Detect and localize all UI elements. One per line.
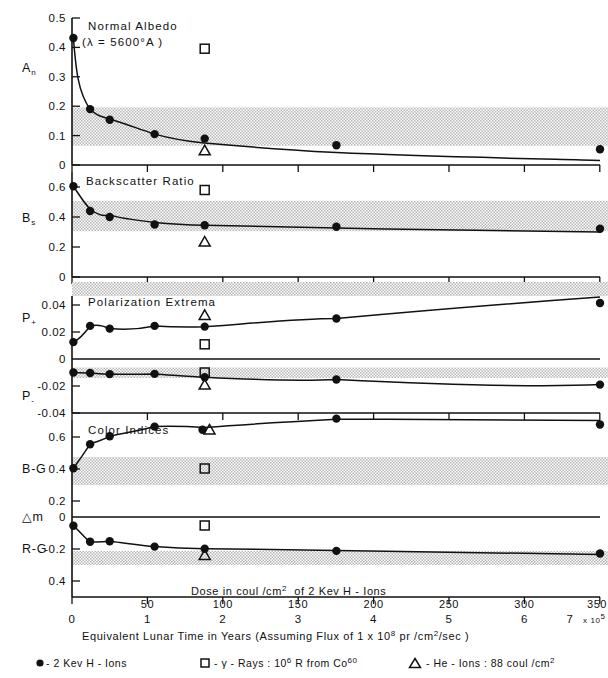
panel-albedo: 0.5 0.4 0.3 0.2 0.1 0 An Normal Albedo (… — [22, 12, 608, 172]
x-axis-dose-label: Dose in coul /cm2 of 2 Kev H - Ions — [191, 584, 386, 597]
x-tick-dose-250: 250 — [439, 598, 459, 610]
x-tick-years-4: 4 — [370, 613, 377, 625]
albedo-ytick-1: 0.4 — [49, 41, 67, 53]
legend-item-he-ions: - He - Ions : 88 coul /cm2 — [426, 656, 555, 669]
polarization-minus-point — [106, 370, 114, 378]
polarization-ytick-1: 0.02 — [42, 326, 66, 338]
x-tick-years-1: 1 — [144, 613, 151, 625]
albedo-gamma-ray-marker — [200, 44, 209, 53]
panel-polarization: 0.04 0.02 0 -0.02 -0.04 P+ P- Polarizati… — [22, 282, 608, 420]
backscatter-ytick-3: 0 — [59, 271, 66, 283]
panel-color-indices: 0.6 0.4 0.2 0 -0.2 0.4 B-G △m R-G Color … — [22, 414, 608, 604]
legend-open-triangle-icon — [410, 659, 421, 668]
x-tick-years-3: 3 — [295, 613, 302, 625]
backscatter-point — [596, 225, 604, 233]
albedo-ytick-4: 0.1 — [49, 130, 67, 142]
multi-panel-chart: 0.5 0.4 0.3 0.2 0.1 0 An Normal Albedo (… — [0, 0, 608, 678]
color-bg-point — [596, 420, 604, 428]
polarization-plus-point — [596, 299, 604, 307]
color-bg-point — [332, 414, 340, 422]
color-rg-point — [150, 542, 158, 550]
legend-filled-circle-icon — [36, 659, 43, 666]
color-bg-point — [86, 440, 94, 448]
polarization-ytick-2: 0 — [59, 353, 66, 365]
x-tick-dose-150: 150 — [288, 598, 308, 610]
panel-backscatter: 0.6 0.4 0.2 0 Bs Backscatter Ratio — [22, 172, 608, 284]
albedo-ytick-3: 0.2 — [49, 100, 67, 112]
albedo-he-ion-marker — [199, 145, 210, 155]
polarization-panel-title: Polarization Extrema — [88, 296, 216, 308]
color-rg-point — [106, 537, 114, 545]
color-bg-axis-label: B-G — [22, 462, 47, 476]
legend-open-square-icon — [201, 659, 209, 667]
albedo-ytick-2: 0.3 — [49, 71, 67, 83]
backscatter-point — [332, 223, 340, 231]
polarization-plus-point — [86, 322, 94, 330]
albedo-point — [332, 141, 340, 149]
x-tick-dose-200: 200 — [364, 598, 384, 610]
albedo-point — [150, 130, 158, 138]
backscatter-he-ion-marker — [199, 237, 210, 247]
polarization-he-ion-marker-upper — [199, 310, 210, 320]
color-rg-axis-label: R-G — [22, 542, 47, 556]
polarization-ytick-4: -0.04 — [37, 407, 66, 419]
color-bg-point — [69, 464, 77, 472]
albedo-point — [596, 145, 604, 153]
color-bg-point — [150, 422, 158, 430]
polarization-plus-axis-label: P+ — [22, 311, 37, 327]
backscatter-ytick-0: 0.6 — [49, 181, 67, 193]
color-ytick-0: 0.6 — [49, 431, 67, 443]
color-ytick-2: 0.2 — [49, 495, 67, 507]
polarization-plus-point — [201, 322, 209, 330]
x-tick-years-0: 0 — [69, 613, 76, 625]
backscatter-ytick-1: 0.4 — [49, 211, 67, 223]
albedo-ytick-5: 0 — [59, 159, 66, 171]
legend-item-h-ions: - 2 Kev H - Ions — [46, 657, 127, 669]
polarization-plus-point — [150, 322, 158, 330]
color-gamma-ray-marker-lower — [200, 521, 209, 530]
color-rg-point — [86, 538, 94, 546]
x-tick-dose-50: 50 — [141, 598, 154, 610]
color-ytick-1: 0.4 — [49, 463, 67, 475]
polarization-minus-point — [150, 370, 158, 378]
x-axis-labels: Dose in coul /cm2 of 2 Kev H - Ions 50 1… — [69, 584, 608, 642]
backscatter-point — [86, 207, 94, 215]
polarization-minus-point — [332, 375, 340, 383]
color-bg-point — [106, 432, 114, 440]
albedo-panel-title: Normal Albedo — [88, 20, 178, 32]
color-rg-point — [69, 522, 77, 530]
polarization-ytick-3: -0.02 — [37, 380, 66, 392]
albedo-ytick-0: 0.5 — [49, 12, 67, 24]
backscatter-point — [69, 182, 77, 190]
albedo-point — [86, 105, 94, 113]
color-rg-point — [332, 547, 340, 555]
x-tick-years-5: 5 — [446, 613, 453, 625]
x-axis-years-multiplier: x 105 — [583, 612, 606, 625]
polarization-he-ion-marker-lower — [199, 380, 210, 390]
polarization-minus-point — [86, 369, 94, 377]
x-tick-years-2: 2 — [219, 613, 226, 625]
albedo-point — [106, 116, 114, 124]
color-ytick-5: 0.4 — [49, 575, 67, 587]
albedo-point — [69, 34, 77, 42]
color-rg-point — [596, 549, 604, 557]
backscatter-panel-title: Backscatter Ratio — [86, 175, 195, 187]
x-axis-lunar-time-label: Equivalent Lunar Time in Years (Assuming… — [82, 629, 469, 642]
backscatter-point — [150, 220, 158, 228]
albedo-axis-label: An — [22, 61, 36, 77]
backscatter-point — [201, 221, 209, 229]
albedo-reference-band — [72, 107, 608, 145]
legend: - 2 Kev H - Ions - γ - Rays : 106 R from… — [36, 656, 555, 669]
albedo-point — [201, 134, 209, 142]
backscatter-ytick-2: 0.2 — [49, 241, 67, 253]
x-tick-years-7: 7 — [567, 613, 574, 625]
legend-item-gamma-rays: - γ - Rays : 106 R from Co60 — [214, 656, 358, 669]
backscatter-gamma-ray-marker — [200, 186, 209, 195]
figure-container: 0.5 0.4 0.3 0.2 0.1 0 An Normal Albedo (… — [0, 0, 608, 678]
color-ytick-4: -0.2 — [44, 543, 66, 555]
x-tick-dose-300: 300 — [514, 598, 534, 610]
polarization-plus-point — [69, 338, 77, 346]
albedo-panel-subtitle: (λ = 5600°A ) — [82, 36, 163, 48]
polarization-plus-point — [106, 324, 114, 332]
polarization-gamma-ray-marker-upper — [200, 340, 209, 349]
